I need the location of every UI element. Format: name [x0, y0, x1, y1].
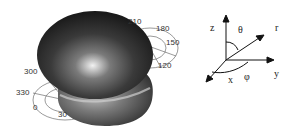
y-axis-label: y [274, 68, 279, 79]
angle-label-210: 210 [128, 17, 141, 26]
angle-label-180: 180 [156, 24, 169, 33]
z-axis-label: z [210, 22, 214, 33]
angle-label-300: 300 [24, 67, 37, 76]
theta-arc [226, 42, 238, 50]
theta-label: θ [238, 24, 243, 35]
angle-label-150: 150 [166, 38, 179, 47]
angle-label-120: 120 [158, 61, 171, 70]
angle-label-330: 330 [16, 88, 29, 97]
x-axis-label: x [228, 74, 233, 85]
r-arrow-icon [256, 35, 264, 41]
angle-label-0: 0 [33, 103, 37, 112]
r-axis-label: r [275, 22, 278, 33]
angle-label-30: 30 [58, 110, 67, 119]
diagram-canvas [0, 0, 293, 133]
phi-label: φ [244, 71, 250, 82]
z-arrow-icon [223, 15, 229, 22]
phi-arc [212, 62, 248, 73]
y-arrow-icon [267, 57, 274, 63]
